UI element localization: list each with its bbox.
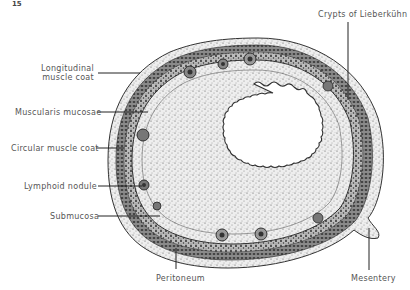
lymphoid-nodule [255, 228, 267, 240]
label-muscularis-mucosae: Muscularis mucosae [15, 108, 102, 117]
label-circular-muscle-coat: Circular muscle coat [11, 144, 99, 153]
lymphoid-nodule [139, 180, 149, 190]
label-longitudinal-line2: muscle coat [40, 73, 94, 82]
lymphoid-nodule [153, 202, 161, 210]
lymphoid-nodule [216, 229, 228, 241]
label-crypts-of-lieberkuhn: Crypts of Lieberkühn [318, 10, 407, 19]
label-mesentery: Mesentery [351, 274, 396, 283]
label-lymphoid-nodule: Lymphoid nodule [24, 182, 97, 191]
diagram-figure: 15 [0, 0, 410, 290]
label-longitudinal-line1: Longitudinal [40, 64, 94, 73]
lymphoid-nodule [218, 59, 228, 69]
lymphoid-nodule [137, 129, 149, 141]
label-submucosa: Submucosa [50, 212, 99, 221]
lymphoid-nodule [313, 213, 323, 223]
lymphoid-nodule [323, 81, 333, 91]
lymphoid-nodule [244, 53, 256, 65]
label-longitudinal-muscle-coat: Longitudinal muscle coat [40, 64, 94, 82]
mucosa-layer [142, 70, 342, 234]
label-peritoneum: Peritoneum [156, 274, 205, 283]
lymphoid-nodule [184, 66, 196, 78]
